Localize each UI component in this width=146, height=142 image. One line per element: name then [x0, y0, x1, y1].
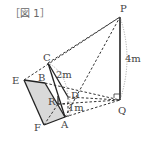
measure-CD: 2m — [56, 69, 72, 80]
measure-PQ: 4m — [125, 53, 141, 64]
label-Q: Q — [118, 105, 126, 116]
label-R: R — [48, 96, 56, 107]
shaded-face — [24, 80, 65, 125]
measure-RA: 1m — [68, 102, 84, 113]
label-P: P — [120, 3, 127, 14]
label-F: F — [34, 122, 41, 133]
figure-title: ［図 1］ — [10, 8, 50, 19]
label-E: E — [12, 75, 19, 86]
label-C: C — [43, 52, 51, 63]
label-A: A — [60, 119, 69, 130]
label-B: B — [38, 72, 45, 83]
right-angle-mark — [114, 94, 120, 98]
geometry-figure: ［図 1］ P Q C E B D — [0, 0, 146, 142]
label-D: D — [71, 90, 79, 101]
